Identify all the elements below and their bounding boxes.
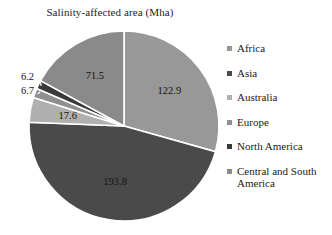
- legend-item[interactable]: Europe: [227, 116, 332, 128]
- slice-value-label: 71.5: [86, 70, 104, 81]
- legend-item-label: Africa: [237, 42, 265, 54]
- legend-item[interactable]: Australia: [227, 91, 332, 103]
- legend-swatch-icon: [227, 95, 232, 100]
- legend-item[interactable]: Asia: [227, 67, 332, 79]
- legend-item[interactable]: North America: [227, 140, 332, 152]
- legend-item-label: Europe: [237, 116, 269, 128]
- slice-value-label: 122.9: [158, 85, 182, 96]
- legend-item-label: North America: [237, 140, 303, 152]
- legend-swatch-icon: [227, 144, 232, 149]
- legend-swatch-icon: [227, 46, 232, 51]
- pie-slice-group: [29, 31, 219, 221]
- legend-item[interactable]: Central and South America: [227, 165, 332, 189]
- slice-callout-label: 6.2: [21, 71, 34, 82]
- legend-swatch-icon: [227, 71, 232, 76]
- slice-value-label: 17.6: [59, 110, 77, 121]
- legend-item-label: Asia: [237, 67, 257, 79]
- legend: AfricaAsiaAustraliaEuropeNorth AmericaCe…: [227, 42, 332, 201]
- legend-item[interactable]: Africa: [227, 42, 332, 54]
- legend-swatch-icon: [227, 120, 232, 125]
- legend-swatch-icon: [227, 169, 232, 174]
- slice-callout-label: 6.7: [21, 85, 34, 96]
- pie-chart: Salinity-affected area (Mha) 122.9193.81…: [0, 0, 332, 235]
- legend-item-label: Central and South America: [237, 165, 332, 189]
- legend-item-label: Australia: [237, 91, 277, 103]
- slice-value-label: 193.8: [103, 176, 127, 187]
